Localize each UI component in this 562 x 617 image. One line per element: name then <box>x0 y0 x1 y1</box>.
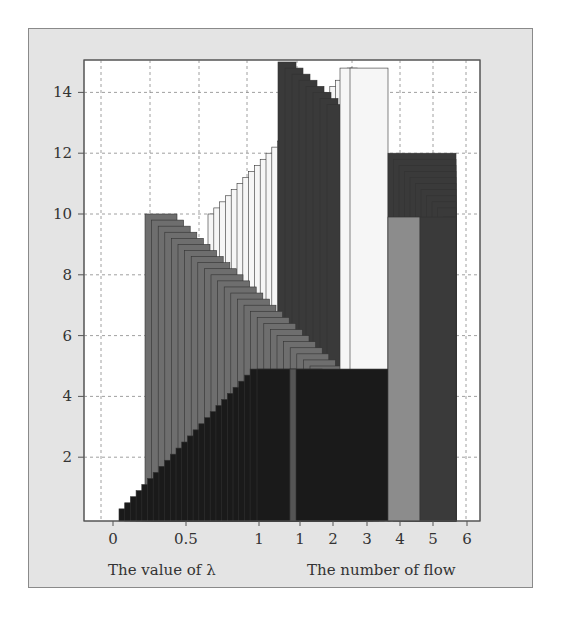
chart: 2468101214 00.51123456 The value of λ Th… <box>0 0 562 617</box>
x-tick-label-flow: 3 <box>362 530 372 548</box>
y-tick-label: 14 <box>53 83 72 101</box>
x-tick-label-flow: 1 <box>295 530 305 548</box>
y-tick-label: 2 <box>62 448 72 466</box>
x-tick-label-lambda: 0 <box>108 530 118 548</box>
bar-dark-flow <box>420 217 456 521</box>
x-tick-label-flow: 5 <box>428 530 438 548</box>
x-tick-label-flow: 4 <box>395 530 405 548</box>
x-tick-label-lambda: 0.5 <box>174 530 198 548</box>
x-tick-label-flow: 6 <box>462 530 472 548</box>
y-tick-label: 4 <box>62 387 72 405</box>
bar-medium-gray-flow <box>388 217 420 521</box>
y-tick-label: 6 <box>62 327 72 345</box>
x-tick-label-lambda: 1 <box>254 530 264 548</box>
y-tick-label: 12 <box>53 144 72 162</box>
x-axis-title-flow: The number of flow <box>307 561 456 579</box>
y-tick-label: 8 <box>62 266 72 284</box>
x-axis-title-lambda: The value of λ <box>108 561 216 579</box>
bar-black-flow <box>257 369 290 521</box>
bar-divider <box>290 369 296 521</box>
x-axis: 00.51123456 <box>108 521 472 548</box>
y-axis: 2468101214 <box>53 83 84 466</box>
y-tick-label: 10 <box>53 205 72 223</box>
x-tick-label-flow: 2 <box>328 530 338 548</box>
